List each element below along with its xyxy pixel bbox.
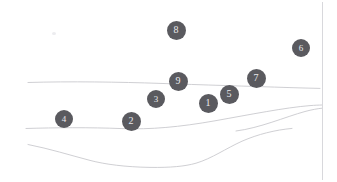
marker-1[interactable]: 1 [199, 94, 218, 113]
marker-6[interactable]: 6 [292, 39, 310, 57]
marker-label: 7 [254, 73, 259, 83]
marker-label: 8 [174, 25, 179, 35]
figure-canvas: 869735142 [0, 0, 337, 182]
marker-label: 3 [154, 94, 159, 103]
right-border-rule [322, 2, 323, 180]
marker-label: 5 [227, 89, 232, 99]
marker-2[interactable]: 2 [122, 112, 141, 131]
marker-3[interactable]: 3 [147, 90, 165, 108]
marker-7[interactable]: 7 [247, 69, 266, 88]
marker-8[interactable]: 8 [167, 21, 186, 40]
marker-label: 1 [206, 98, 211, 108]
marker-label: 9 [176, 76, 181, 86]
marker-9[interactable]: 9 [169, 72, 188, 91]
marker-4[interactable]: 4 [55, 110, 73, 128]
marker-label: 4 [62, 114, 67, 123]
marker-label: 2 [129, 116, 134, 126]
marker-5[interactable]: 5 [220, 85, 239, 104]
middle-contour-branch-line [236, 108, 322, 131]
lower-contour-line [28, 128, 292, 167]
marker-label: 6 [299, 43, 304, 52]
